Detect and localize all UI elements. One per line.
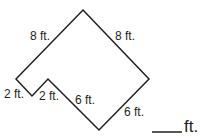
- label-notch-left: 2 ft.: [4, 87, 24, 101]
- perimeter-figure: 8 ft. 8 ft. 2 ft. 2 ft. 6 ft. 6 ft. ft.: [0, 0, 208, 138]
- label-top-left: 8 ft.: [30, 29, 50, 43]
- label-bottom-right: 6 ft.: [124, 105, 144, 119]
- label-bottom-left: 6 ft.: [75, 93, 95, 107]
- answer-unit: ft.: [184, 117, 198, 136]
- label-top-right: 8 ft.: [115, 29, 135, 43]
- label-notch-right: 2 ft.: [39, 89, 59, 103]
